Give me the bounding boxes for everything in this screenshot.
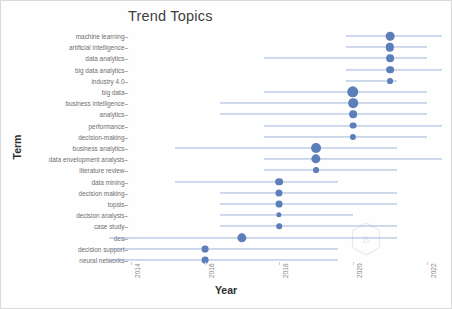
x-axis-tick-mark <box>279 262 280 265</box>
range-line <box>264 58 427 59</box>
data-point[interactable] <box>347 86 358 97</box>
data-point[interactable] <box>275 178 283 186</box>
range-line <box>220 103 427 104</box>
data-point[interactable] <box>349 111 357 119</box>
range-line <box>264 91 427 92</box>
range-line <box>109 259 338 260</box>
data-point[interactable] <box>276 213 281 218</box>
range-line <box>220 203 398 204</box>
range-line <box>264 159 442 160</box>
data-point[interactable] <box>276 224 282 230</box>
data-point[interactable] <box>386 32 395 41</box>
data-point[interactable] <box>348 98 358 108</box>
data-point[interactable] <box>275 189 282 196</box>
range-line <box>264 170 397 171</box>
data-point[interactable] <box>313 167 319 173</box>
data-point[interactable] <box>386 66 394 74</box>
data-point[interactable] <box>237 233 246 242</box>
x-axis-tick-label: 2020 <box>356 263 363 278</box>
range-line <box>175 181 338 182</box>
data-point[interactable] <box>311 155 320 164</box>
x-axis-tick-label: 2016 <box>208 263 215 278</box>
range-line <box>220 215 353 216</box>
data-point[interactable] <box>350 122 357 129</box>
data-point[interactable] <box>386 55 394 63</box>
data-point[interactable] <box>386 43 394 51</box>
x-axis-tick-label: 2014 <box>134 263 141 278</box>
x-axis-tick-mark <box>427 262 428 265</box>
x-axis-tick-mark <box>131 262 132 265</box>
x-axis-tick-mark <box>205 262 206 265</box>
range-line <box>220 114 427 115</box>
bibliometrix-watermark-icon: B <box>351 222 381 256</box>
range-line <box>175 147 397 148</box>
range-line <box>264 136 427 137</box>
x-axis-tick-label: 2022 <box>430 263 437 278</box>
plot-area: 20142016201820202022 <box>0 0 452 309</box>
data-point[interactable] <box>202 245 209 252</box>
range-line <box>109 248 338 249</box>
x-axis-tick-mark <box>353 262 354 265</box>
data-point[interactable] <box>387 78 393 84</box>
data-point[interactable] <box>276 201 283 208</box>
x-axis-tick-label: 2018 <box>282 263 289 278</box>
data-point[interactable] <box>350 134 356 140</box>
data-point[interactable] <box>311 143 321 153</box>
svg-text:B: B <box>362 233 369 245</box>
range-line <box>220 192 398 193</box>
